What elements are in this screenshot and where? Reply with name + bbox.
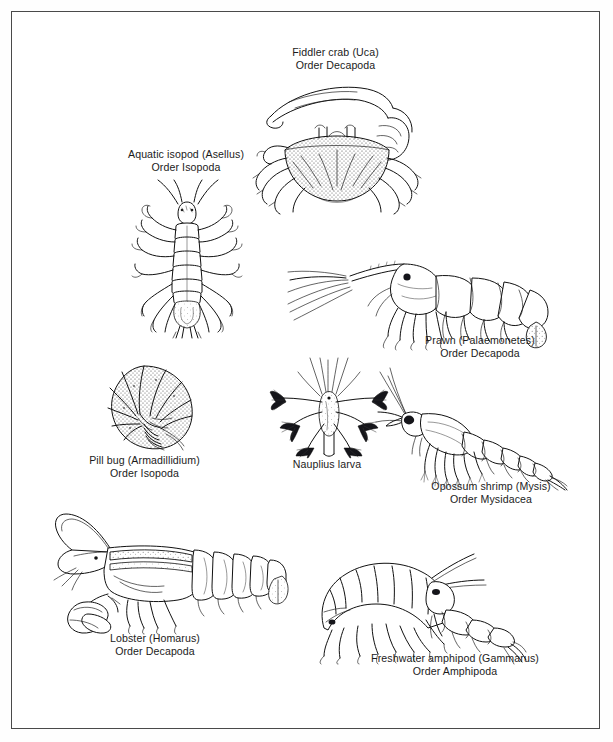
artwork-aquatic-isopod	[132, 180, 242, 338]
caption-line-order: Order Isopoda	[108, 161, 264, 174]
caption-line-common-name: Freshwater amphipod (Gammarus)	[354, 652, 556, 665]
caption-line-common-name: Aquatic isopod (Asellus)	[108, 148, 264, 161]
caption-fiddler-crab: Fiddler crab (Uca) Order Decapoda	[243, 46, 428, 71]
caption-line-common-name: Pill bug (Armadillidium)	[62, 454, 227, 467]
figure-pill-bug: Pill bug (Armadillidium) Order Isopoda	[62, 362, 227, 477]
caption-opossum-shrimp: Opossum shrimp (Mysis) Order Mysidacea	[410, 480, 572, 505]
caption-aquatic-isopod: Aquatic isopod (Asellus) Order Isopoda	[108, 148, 264, 173]
figure-aquatic-isopod: Aquatic isopod (Asellus) Order Isopoda	[108, 148, 264, 343]
artwork-fiddler-crab	[249, 74, 425, 216]
figure-freshwater-amphipod: Freshwater amphipod (Gammarus) Order Amp…	[306, 552, 556, 692]
caption-prawn: Prawn (Palaemonetes) Order Decapoda	[394, 334, 566, 359]
artwork-lobster	[52, 506, 290, 634]
artwork-opossum-shrimp	[372, 368, 567, 490]
figure-fiddler-crab: Fiddler crab (Uca) Order Decapoda	[243, 46, 428, 216]
caption-freshwater-amphipod: Freshwater amphipod (Gammarus) Order Amp…	[354, 652, 556, 677]
caption-line-order: Order Decapoda	[243, 59, 428, 72]
caption-line-order: Order Mysidacea	[410, 493, 572, 506]
illustration-plate: Fiddler crab (Uca) Order Decapoda	[0, 0, 613, 742]
caption-line-common-name: Opossum shrimp (Mysis)	[410, 480, 572, 493]
figure-prawn: Prawn (Palaemonetes) Order Decapoda	[286, 250, 566, 370]
artwork-pill-bug	[86, 362, 204, 454]
figure-opossum-shrimp: Opossum shrimp (Mysis) Order Mysidacea	[372, 368, 572, 503]
caption-line-order: Order Amphipoda	[354, 665, 556, 678]
caption-line-order: Order Decapoda	[70, 645, 240, 658]
caption-pill-bug: Pill bug (Armadillidium) Order Isopoda	[62, 454, 227, 479]
figure-lobster: Lobster (Homarus) Order Decapoda	[52, 506, 292, 656]
caption-line-order: Order Isopoda	[62, 467, 227, 480]
caption-lobster: Lobster (Homarus) Order Decapoda	[70, 632, 240, 657]
artwork-nauplius-larva	[270, 358, 388, 458]
caption-line-common-name: Lobster (Homarus)	[70, 632, 240, 645]
artwork-freshwater-amphipod	[306, 552, 526, 664]
caption-line-common-name: Prawn (Palaemonetes)	[394, 334, 566, 347]
caption-line-common-name: Fiddler crab (Uca)	[243, 46, 428, 59]
caption-line-order: Order Decapoda	[394, 347, 566, 360]
